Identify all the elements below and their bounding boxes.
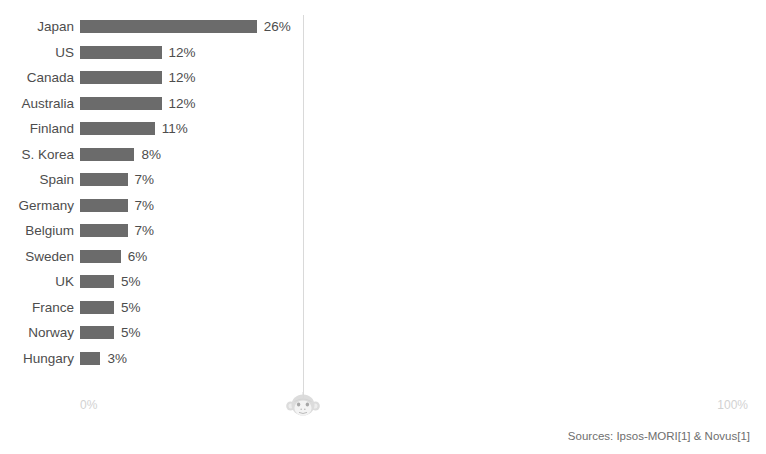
bar-row: Canada12% [0,65,766,91]
bar-and-value: 11% [80,122,188,135]
bar-row: Japan26% [0,14,766,40]
bar [80,71,162,84]
chart-sources: Sources: Ipsos-MORI[1] & Novus[1] [568,430,750,442]
bar-value-label: 8% [141,148,161,162]
bar-and-value: 5% [80,275,141,288]
bar-row: Spain7% [0,167,766,193]
bar [80,326,114,339]
bar-rows: Japan26%US12%Canada12%Australia12%Finlan… [0,14,766,371]
bar [80,97,162,110]
bar [80,173,128,186]
bar-value-label: 12% [169,46,196,60]
bar-category-label: Belgium [0,224,74,238]
bar-value-label: 11% [162,122,188,136]
axis-tick-min: 0% [80,398,97,412]
bar-value-label: 12% [169,71,196,85]
bar-category-label: Sweden [0,250,74,264]
bar-and-value: 7% [80,224,154,237]
bar [80,148,134,161]
bar [80,224,128,237]
bar-row: Germany7% [0,193,766,219]
bar-and-value: 12% [80,46,196,59]
bar [80,20,257,33]
bar-value-label: 5% [121,301,141,315]
bar [80,301,114,314]
bar-value-label: 5% [121,326,141,340]
bar-row: US12% [0,40,766,66]
bar-category-label: France [0,301,74,315]
horizontal-bar-chart: Japan26%US12%Canada12%Australia12%Finlan… [0,0,766,454]
bar-value-label: 7% [135,224,155,238]
bar-category-label: Australia [0,97,74,111]
bar [80,46,162,59]
bar-value-label: 7% [135,199,155,213]
bar-category-label: Germany [0,199,74,213]
bar-and-value: 8% [80,148,161,161]
bar-value-label: 6% [128,250,148,264]
plot-area: Japan26%US12%Canada12%Australia12%Finlan… [0,14,766,397]
bar-row: Belgium7% [0,218,766,244]
bar [80,122,155,135]
bar [80,199,128,212]
bar-category-label: Canada [0,71,74,85]
bar-and-value: 5% [80,326,141,339]
bar-row: Hungary3% [0,346,766,372]
bar-value-label: 26% [264,20,291,34]
bar-row: France5% [0,295,766,321]
bar-and-value: 3% [80,352,127,365]
bar-row: Sweden6% [0,244,766,270]
bar-and-value: 12% [80,97,196,110]
bar-category-label: Finland [0,122,74,136]
bar-value-label: 3% [107,352,127,366]
bar-category-label: Japan [0,20,74,34]
bar-category-label: UK [0,275,74,289]
bar-category-label: S. Korea [0,148,74,162]
bar-and-value: 5% [80,301,141,314]
bar-row: UK5% [0,269,766,295]
bar-category-label: Hungary [0,352,74,366]
bar [80,352,100,365]
bar-and-value: 6% [80,250,147,263]
bar-row: Finland11% [0,116,766,142]
bar-value-label: 7% [135,173,155,187]
bar-row: S. Korea8% [0,142,766,168]
chart-title-cutoff [70,0,630,12]
bar-value-label: 12% [169,97,196,111]
bar-row: Australia12% [0,91,766,117]
bar-value-label: 5% [121,275,141,289]
bar-category-label: Norway [0,326,74,340]
monkey-face-icon [286,392,320,418]
axis-tick-max: 100% [717,398,748,412]
bar-and-value: 26% [80,20,291,33]
bar-and-value: 7% [80,173,154,186]
bar [80,250,121,263]
bar-row: Norway5% [0,320,766,346]
bar-category-label: US [0,46,74,60]
bar-category-label: Spain [0,173,74,187]
bar-and-value: 7% [80,199,154,212]
bar-and-value: 12% [80,71,196,84]
bar [80,275,114,288]
